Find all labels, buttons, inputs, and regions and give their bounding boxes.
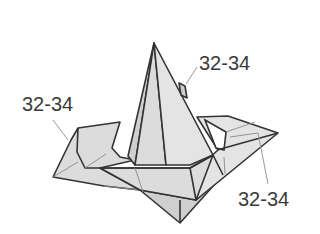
- leader-line-top: [186, 67, 197, 84]
- step-label-left: 32-34: [22, 94, 73, 114]
- leader-line-left: [53, 120, 68, 140]
- step-label-top: 32-34: [199, 53, 250, 73]
- step-label-right: 32-34: [238, 189, 289, 209]
